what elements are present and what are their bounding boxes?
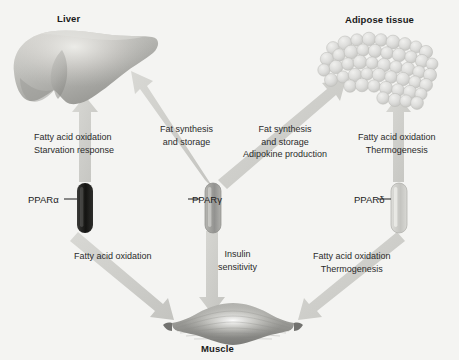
flow-label-line: Adipokine production — [243, 148, 327, 161]
receptor-ppar-delta-capsule — [391, 183, 407, 233]
flow-label-line: sensitivity — [218, 261, 257, 274]
flow-label-line: and storage — [160, 136, 213, 149]
flow-label-alpha-to-liver: Fatty acid oxidationStarvation response — [34, 131, 114, 156]
arrow-delta-to-muscle — [298, 232, 405, 320]
skeletal-muscle-icon — [163, 303, 303, 345]
flow-label-alpha-to-muscle: Fatty acid oxidation — [74, 250, 152, 263]
flow-label-gamma-to-liver: Fat synthesisand storage — [160, 123, 213, 148]
receptor-label-ppar-gamma: PPARγ — [192, 194, 222, 205]
flow-label-line: Thermogenesis — [313, 263, 391, 276]
flow-label-delta-to-muscle: Fatty acid oxidationThermogenesis — [313, 250, 391, 275]
flow-label-line: Insulin — [218, 248, 257, 261]
receptor-label-ppar-alpha: PPARα — [28, 194, 59, 205]
flow-label-line: Fat synthesis — [243, 123, 327, 136]
diagram-canvas — [0, 0, 459, 360]
flow-label-line: Fatty acid oxidation — [34, 131, 114, 144]
receptor-label-ppar-delta: PPARδ — [354, 194, 384, 205]
adipose-tissue-icon — [318, 32, 438, 109]
flow-label-line: Starvation response — [34, 144, 114, 157]
organ-label-muscle: Muscle — [201, 343, 234, 354]
flow-label-line: Fatty acid oxidation — [358, 131, 436, 144]
flow-label-line: Thermogenesis — [358, 144, 436, 157]
flow-label-line: Fat synthesis — [160, 123, 213, 136]
receptor-ppar-alpha-capsule — [77, 183, 93, 233]
ppar-pathway-diagram: Liver Adipose tissue Muscle PPARα PPARγ … — [0, 0, 459, 360]
arrow-alpha-to-muscle — [70, 232, 174, 320]
flow-label-line: and storage — [243, 136, 327, 149]
receptor-ppar-gamma-capsule — [205, 183, 221, 233]
flow-label-gamma-to-muscle: Insulinsensitivity — [218, 248, 257, 273]
liver-organ-icon — [14, 31, 158, 105]
organ-label-liver: Liver — [57, 13, 80, 24]
organ-label-adipose-tissue: Adipose tissue — [345, 14, 414, 25]
flow-label-line: Fatty acid oxidation — [74, 250, 152, 263]
flow-label-gamma-to-adipose: Fat synthesisand storageAdipokine produc… — [243, 123, 327, 161]
flow-label-delta-to-adipose: Fatty acid oxidationThermogenesis — [358, 131, 436, 156]
flow-label-line: Fatty acid oxidation — [313, 250, 391, 263]
